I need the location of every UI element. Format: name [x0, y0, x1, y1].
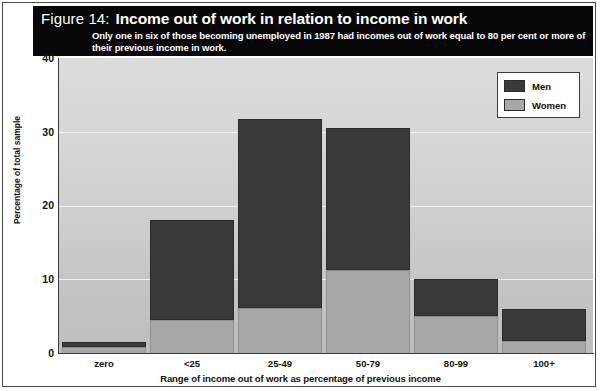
bar-zero[interactable]: [62, 342, 146, 353]
x-tick-under-25: <25: [150, 358, 234, 369]
legend-swatch-men-icon: [504, 80, 525, 92]
figure-root: Figure 14:Income out of work in relation…: [0, 0, 601, 391]
y-axis-title: Percentage of total sample: [12, 85, 22, 255]
y-tick-30: 30: [42, 126, 54, 138]
legend-row-men[interactable]: Men: [504, 79, 551, 93]
x-axis-title: Range of income out of work as percentag…: [0, 373, 601, 384]
x-tick-100-plus: 100+: [502, 358, 586, 369]
bar-100-plus[interactable]: [502, 309, 586, 353]
x-tick-25-49: 25-49: [238, 358, 322, 369]
x-tick-zero: zero: [62, 358, 146, 369]
figure-header-band: Figure 14:Income out of work in relation…: [33, 6, 593, 56]
bar-50-79-women-segment: [326, 270, 410, 353]
legend-label-men: Men: [532, 81, 551, 92]
bar-25-49-men-segment: [238, 119, 322, 308]
figure-subtitle: Only one in six of those becoming unempl…: [92, 30, 587, 53]
plot-area: Men Women: [59, 58, 593, 353]
bar-under-25-men-segment: [150, 220, 234, 320]
x-tick-80-99: 80-99: [414, 358, 498, 369]
bar-80-99[interactable]: [414, 279, 498, 353]
y-tick-20: 20: [42, 199, 54, 211]
legend-row-women[interactable]: Women: [504, 98, 566, 112]
bar-80-99-men-segment: [414, 279, 498, 316]
figure-title-line: Figure 14:Income out of work in relation…: [41, 10, 467, 28]
bar-under-25[interactable]: [150, 220, 234, 353]
chart-legend: Men Women: [497, 72, 580, 118]
y-tick-40: 40: [42, 52, 54, 64]
y-tick-0: 0: [48, 347, 54, 359]
legend-swatch-women-icon: [504, 99, 525, 111]
page-title: Income out of work in relation to income…: [116, 10, 468, 27]
bar-100-plus-men-segment: [502, 309, 586, 342]
bar-100-plus-women-segment: [502, 341, 586, 353]
y-axis-ticks: 40 30 20 10 0: [24, 0, 54, 391]
bar-25-49[interactable]: [238, 119, 322, 353]
x-axis-line: [58, 353, 594, 354]
y-axis-line: [58, 58, 59, 354]
legend-label-women: Women: [532, 100, 566, 111]
x-tick-50-79: 50-79: [326, 358, 410, 369]
bar-50-79[interactable]: [326, 128, 410, 353]
bar-50-79-men-segment: [326, 128, 410, 270]
bar-25-49-women-segment: [238, 308, 322, 353]
bar-80-99-women-segment: [414, 316, 498, 353]
bar-under-25-women-segment: [150, 320, 234, 353]
y-tick-10: 10: [42, 273, 54, 285]
